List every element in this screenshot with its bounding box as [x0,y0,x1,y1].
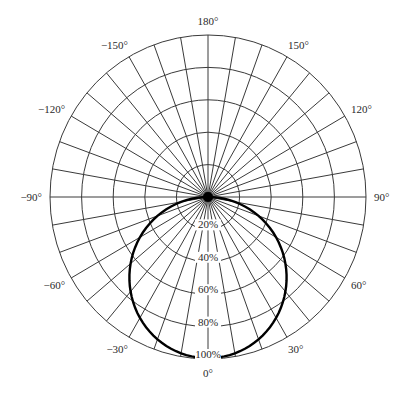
angle-label-0: 0° [203,367,213,379]
center-dot-marker [203,192,213,202]
radial-label-60: 60% [198,283,218,295]
angle-label--120: −120° [38,103,65,115]
angle-label-30: 30° [288,343,303,355]
angle-label--30: −30° [106,343,128,355]
radial-label-80: 80% [198,316,218,328]
radial-label-40: 40% [198,251,218,263]
angle-label--60: −60° [43,279,65,291]
angle-label-60: 60° [351,279,366,291]
angle-label-120: 120° [351,103,372,115]
angle-label-150: 150° [288,39,309,51]
angle-label--90: −90° [20,191,42,203]
radial-label-20: 20% [198,218,218,230]
angle-label-90: 90° [374,191,389,203]
angle-label--150: −150° [101,39,128,51]
angle-label-180: 180° [198,15,219,27]
polar-chart: 20%40%60%80%100% 0°30°60°90°120°150°180°… [0,0,407,398]
radial-label-100: 100% [195,348,221,360]
